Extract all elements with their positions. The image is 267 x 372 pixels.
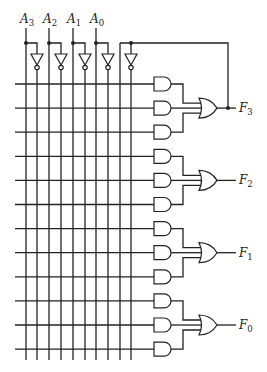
output-subscript: 0	[247, 324, 252, 334]
and-to-or-wire	[171, 113, 202, 132]
junction-dot	[24, 41, 28, 45]
and-to-or-wire	[171, 330, 202, 349]
junction-dot	[71, 41, 75, 45]
and-gate	[154, 77, 171, 91]
input-subscript: 2	[52, 18, 57, 28]
and-gate	[154, 222, 171, 236]
feedback-wire	[120, 43, 228, 108]
output-label-F3: F3	[238, 101, 253, 117]
and-gate	[154, 270, 171, 284]
output-label-F0: F0	[238, 318, 253, 334]
inverter-gate	[102, 54, 114, 65]
and-to-or-wire	[171, 229, 202, 248]
inverter-branch	[73, 43, 85, 54]
inverter-gate	[125, 54, 137, 65]
inverter-bubble	[129, 65, 133, 69]
inverter-branch	[26, 43, 37, 54]
or-gate	[199, 170, 217, 190]
or-gate	[199, 315, 217, 335]
input-label-A1: A1	[66, 12, 81, 28]
inverter-bubble	[59, 65, 63, 69]
output-subscript: 3	[247, 107, 252, 117]
pla-diagram: A3A2A1A0 F3F2F1F0	[0, 0, 267, 372]
inverter-gate	[31, 54, 43, 65]
junction-dot	[129, 41, 133, 45]
or-gate	[199, 98, 217, 118]
inverter-bubble	[106, 65, 110, 69]
inverter-gate	[55, 54, 67, 65]
input-subscript: 0	[99, 18, 104, 28]
and-gate	[154, 125, 171, 139]
inverter-bubble	[35, 65, 39, 69]
and-gate	[154, 198, 171, 212]
and-to-or-wire	[171, 301, 202, 320]
and-gate	[154, 101, 171, 115]
junction-dot	[47, 41, 51, 45]
input-label-A3: A3	[19, 12, 34, 28]
and-to-or-wire	[171, 84, 202, 103]
input-label-A0: A0	[89, 12, 104, 28]
and-to-or-wire	[171, 258, 202, 277]
inverter-branch	[96, 43, 108, 54]
and-gate	[154, 246, 171, 260]
inverter-gate	[79, 54, 91, 65]
output-subscript: 1	[247, 252, 252, 262]
output-label-F2: F2	[238, 173, 253, 189]
output-label-F1: F1	[238, 246, 253, 262]
junction-dot	[94, 41, 98, 45]
input-subscript: 1	[76, 18, 81, 28]
and-gate	[154, 342, 171, 356]
and-gate	[154, 318, 171, 332]
and-gate	[154, 294, 171, 308]
inverter-branch	[49, 43, 61, 54]
inverter-bubble	[83, 65, 87, 69]
and-gate	[154, 173, 171, 187]
input-label-A2: A2	[42, 12, 57, 28]
pla-circuit: A3A2A1A0 F3F2F1F0	[0, 0, 267, 372]
and-to-or-wire	[171, 156, 202, 175]
output-subscript: 2	[247, 179, 252, 189]
input-subscript: 3	[29, 18, 34, 28]
and-to-or-wire	[171, 185, 202, 204]
or-gate	[199, 243, 217, 263]
and-gate	[154, 149, 171, 163]
